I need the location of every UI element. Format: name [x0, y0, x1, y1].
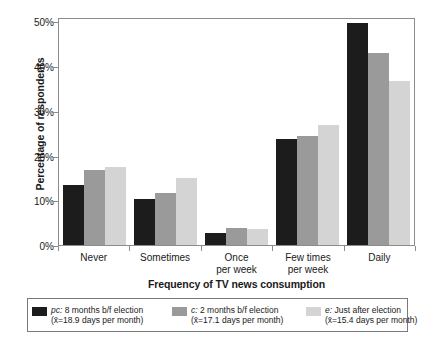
legend-label: c: 2 months b/f election(x̄=17.1 days pe… [191, 305, 283, 326]
x-tick-mark [415, 246, 416, 251]
bar-chart: Percentage of respondents 0%10%20%30%40%… [0, 0, 431, 346]
bars-layer [59, 19, 414, 245]
bar-e [105, 167, 126, 245]
x-label-never: Never [58, 252, 129, 275]
chart-legend: pc: 8 months b/f election(x̄=18.9 days p… [27, 298, 408, 332]
x-tick-mark [272, 246, 273, 251]
y-tick-label: 10% [4, 196, 54, 207]
bar-c [297, 136, 318, 245]
bar-pc [205, 233, 226, 245]
bar-pc [347, 23, 368, 245]
bar-pc [63, 185, 84, 245]
bar-pc [134, 199, 155, 245]
y-tick-label: 50% [4, 17, 54, 28]
bar-pc [276, 139, 297, 245]
y-tick-label: 0% [4, 241, 54, 252]
legend-entry-c: c: 2 months b/f election(x̄=17.1 days pe… [172, 305, 306, 326]
legend-swatch-icon [306, 307, 321, 316]
x-label-once-per-week: Onceper week [201, 252, 272, 275]
bar-e [318, 125, 339, 245]
y-axis-title: Percentage of respondents [34, 24, 46, 224]
bar-group [272, 19, 343, 245]
bar-c [226, 228, 247, 245]
x-axis-labels: NeverSometimesOnceper weekFew timesper w… [58, 252, 415, 275]
bar-group [343, 19, 414, 245]
legend-swatch-icon [172, 307, 187, 316]
bar-e [176, 178, 197, 245]
bar-c [84, 170, 105, 245]
y-tick-label: 20% [4, 151, 54, 162]
x-tick-mark [344, 246, 345, 251]
x-axis-title: Frequency of TV news consumption [58, 278, 415, 290]
bar-group [59, 19, 130, 245]
x-tick-mark [129, 246, 130, 251]
legend-entry-pc: pc: 8 months b/f election(x̄=18.9 days p… [32, 305, 172, 326]
bar-e [247, 229, 268, 245]
legend-label: pc: 8 months b/f election(x̄=18.9 days p… [51, 305, 143, 326]
y-tick-label: 40% [4, 62, 54, 73]
legend-swatch-icon [32, 307, 47, 316]
bar-c [155, 193, 176, 245]
legend-label: e: Just after election(x̄=15.4 days per … [325, 305, 417, 326]
bar-c [368, 53, 389, 245]
x-label-sometimes: Sometimes [129, 252, 200, 275]
y-tick-label: 30% [4, 106, 54, 117]
bar-group [130, 19, 201, 245]
x-label-daily: Daily [344, 252, 415, 275]
legend-entry-e: e: Just after election(x̄=15.4 days per … [306, 305, 426, 326]
x-label-few-times-per-week: Few timesper week [272, 252, 343, 275]
bar-group [201, 19, 272, 245]
bar-e [389, 81, 410, 245]
x-tick-mark [58, 246, 59, 251]
x-tick-mark [201, 246, 202, 251]
plot-area [58, 18, 415, 246]
